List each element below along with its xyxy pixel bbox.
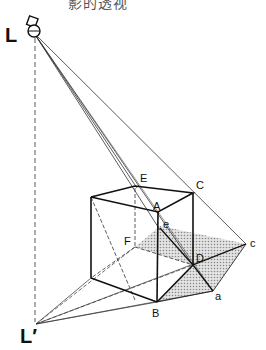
edge-A-B — [157, 212, 158, 302]
ray-to-e — [34, 33, 160, 230]
foot-ray-front — [36, 278, 91, 324]
label-A: A — [153, 200, 161, 212]
label-C: C — [196, 179, 204, 191]
label-E: E — [140, 172, 147, 184]
lamp-icon — [27, 16, 40, 37]
label-L: L — [5, 24, 17, 46]
shadow-perspective-diagram: L L′ A B C D E F a c e — [0, 0, 266, 350]
label-F: F — [124, 235, 131, 247]
hidden-shadow-line — [91, 197, 135, 300]
label-e: e — [163, 218, 169, 230]
ray-to-a — [34, 33, 213, 291]
ray-to-E — [34, 33, 137, 188]
label-a: a — [215, 290, 222, 302]
ray-to-c — [34, 33, 246, 244]
label-L-prime: L′ — [20, 325, 37, 347]
label-D: D — [196, 252, 204, 264]
label-c: c — [250, 237, 256, 249]
label-B: B — [152, 307, 159, 319]
foot-ray-F — [36, 247, 135, 324]
hidden-edge-F-front — [91, 247, 135, 278]
foot-ray-B — [36, 302, 157, 324]
